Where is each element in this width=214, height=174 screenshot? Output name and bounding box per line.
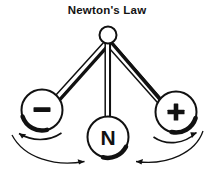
bob-neutral-label: N bbox=[100, 126, 115, 149]
bob-neutral: N bbox=[88, 117, 129, 158]
rod-left-shade bbox=[54, 42, 111, 106]
newtons-law-figure: Newton's Law bbox=[0, 0, 214, 174]
plus-icon-vertical bbox=[174, 104, 179, 121]
rod-right-shade bbox=[110, 42, 167, 107]
rod-group bbox=[51, 42, 167, 119]
bob-negative bbox=[22, 90, 63, 131]
rod-left bbox=[51, 42, 112, 106]
arrow-left-short-shaft bbox=[19, 133, 62, 139]
rod-right bbox=[106, 42, 167, 107]
minus-icon bbox=[34, 107, 51, 112]
bob-positive bbox=[156, 92, 197, 133]
diagram-canvas: N bbox=[0, 0, 214, 174]
arrow-left-long-head bbox=[78, 159, 85, 164]
arrow-right-long-head bbox=[136, 159, 143, 165]
pivot-circle bbox=[100, 27, 117, 44]
rod-center bbox=[105, 42, 110, 118]
pivot bbox=[100, 27, 117, 44]
rod-center-shade bbox=[109, 43, 111, 118]
arrow-left-short bbox=[19, 133, 62, 139]
